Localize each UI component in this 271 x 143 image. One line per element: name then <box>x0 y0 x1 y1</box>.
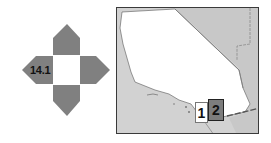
current-page-label: 14.1 <box>30 64 50 76</box>
map-tile-1[interactable]: 1 <box>195 102 208 123</box>
map-tile-2[interactable]: 2 <box>208 99 224 121</box>
arrow-up-icon[interactable] <box>53 24 80 55</box>
tile-label: 2 <box>212 102 220 118</box>
arrow-right-icon[interactable] <box>80 56 110 84</box>
tile-label: 1 <box>198 105 206 121</box>
center-square <box>53 56 80 84</box>
arrow-down-icon[interactable] <box>53 85 80 116</box>
map-geography <box>117 8 259 134</box>
locator-map: 1 2 <box>116 7 259 134</box>
